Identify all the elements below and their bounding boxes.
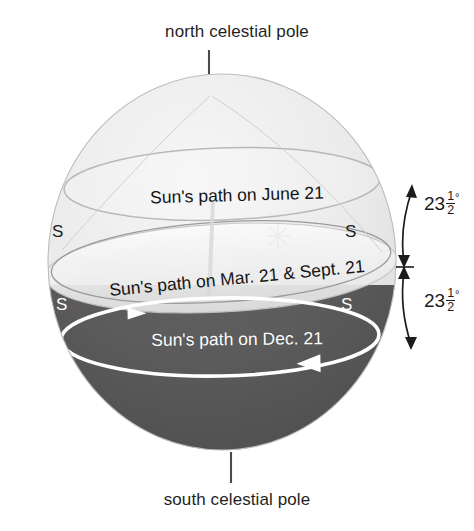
horizon-marker-south-lower-right: S — [341, 295, 352, 315]
sun-glyph — [266, 224, 290, 248]
tilt-angle-lower-numerator: 1 — [446, 287, 455, 301]
tilt-angle-upper-fraction: 1 2 — [446, 190, 455, 217]
tilt-angle-lower-degree-symbol: ° — [455, 288, 459, 300]
tilt-angle-upper-degree-symbol: ° — [455, 191, 459, 203]
horizon-marker-south-lower-left: S — [56, 295, 67, 315]
tilt-angle-label-upper: 23 1 2 ° — [424, 190, 460, 217]
tilt-angle-upper-whole: 23 — [424, 193, 445, 215]
south-celestial-pole-label: south celestial pole — [0, 490, 474, 510]
horizon-marker-south-upper-left: S — [52, 222, 63, 242]
celestial-sphere-diagram: north celestial pole south celestial pol… — [0, 0, 474, 531]
tilt-angle-upper-denominator: 2 — [446, 204, 455, 217]
tilt-angle-upper-numerator: 1 — [446, 190, 455, 204]
horizon-marker-south-upper-right: S — [345, 222, 356, 242]
tilt-angle-lower-denominator: 2 — [446, 301, 455, 314]
north-celestial-pole-label: north celestial pole — [0, 22, 474, 42]
tilt-angle-lower-fraction: 1 2 — [446, 287, 455, 314]
tilt-angle-lower-whole: 23 — [424, 290, 445, 312]
tilt-angle-label-lower: 23 1 2 ° — [424, 287, 460, 314]
